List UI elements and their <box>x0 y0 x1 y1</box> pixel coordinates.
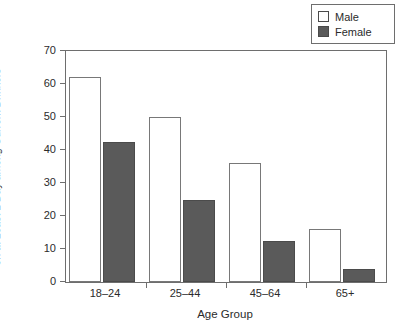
chart-legend: Male Female <box>311 4 395 44</box>
y-axis-tick: 30 <box>60 182 66 183</box>
x-axis-category-label: 65+ <box>305 287 385 300</box>
bar-male-4564 <box>229 163 261 282</box>
y-axis-tick: 70 <box>60 50 66 51</box>
y-axis-tick: 40 <box>60 149 66 150</box>
legend-label-male: Male <box>335 11 359 23</box>
bar-female-2544 <box>183 200 215 283</box>
y-axis-tick: 60 <box>60 83 66 84</box>
y-axis-tick: 20 <box>60 215 66 216</box>
legend-swatch-male-icon <box>318 11 329 22</box>
y-axis-tick: 10 <box>60 248 66 249</box>
legend-item-female: Female <box>318 24 389 39</box>
bar-chart-figure: Male Female 010203040506070 18–2425–4445… <box>0 0 402 334</box>
y-axis-tick: 0 <box>60 281 66 282</box>
bar-female-1824 <box>103 142 135 282</box>
legend-label-female: Female <box>335 26 372 38</box>
bar-male-2544 <box>149 117 181 282</box>
legend-swatch-female-icon <box>318 26 329 37</box>
x-axis-title: Age Group <box>65 307 385 321</box>
bar-female-65 <box>343 269 375 282</box>
legend-item-male: Male <box>318 9 389 24</box>
plot-area: 010203040506070 <box>65 50 387 283</box>
y-axis-title-line-2: on at Least 1 Day among Current Drinkers <box>0 68 3 265</box>
bar-male-1824 <box>69 77 101 282</box>
y-axis-title: Percentage of Persons Having 5 or More D… <box>0 0 30 334</box>
x-axis-category-label: 45–64 <box>225 287 305 300</box>
bar-male-65 <box>309 229 341 282</box>
x-axis-category-label: 18–24 <box>65 287 145 300</box>
x-axis-category-label: 25–44 <box>145 287 225 300</box>
bar-female-4564 <box>263 241 295 282</box>
y-axis-tick: 50 <box>60 116 66 117</box>
